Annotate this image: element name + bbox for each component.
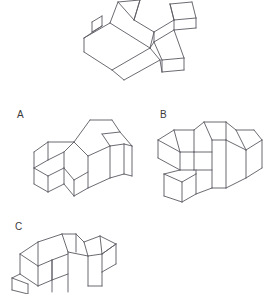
target-figure-drawing — [62, 0, 204, 90]
option-b-figure[interactable] — [150, 112, 270, 204]
option-c-drawing — [4, 224, 128, 294]
option-a-figure[interactable] — [12, 112, 136, 204]
option-a-drawing — [12, 112, 136, 204]
target-figure — [62, 0, 204, 90]
option-c-figure[interactable] — [4, 224, 128, 294]
option-b-drawing — [150, 112, 270, 204]
